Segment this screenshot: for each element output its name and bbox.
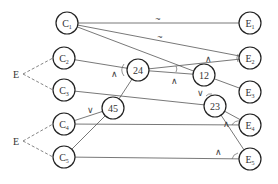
and-symbol: ∧ <box>215 147 222 157</box>
edge-c3-n23 <box>64 90 215 106</box>
node-e1[interactable]: E1 <box>239 12 261 34</box>
node-label: 23 <box>210 101 220 112</box>
and-symbol: ∧ <box>205 54 212 64</box>
node-e5[interactable]: E5 <box>239 148 261 170</box>
node-n23[interactable]: 23 <box>204 95 226 117</box>
node-c1[interactable]: C1 <box>56 12 78 34</box>
node-e4[interactable]: E4 <box>239 114 261 136</box>
node-c2[interactable]: C2 <box>53 47 75 69</box>
and-symbol: ∧ <box>171 76 178 86</box>
tilde-mark: ~ <box>157 32 162 42</box>
node-n45[interactable]: 45 <box>102 97 124 119</box>
edge-c5-e5 <box>64 157 250 159</box>
node-c3[interactable]: C3 <box>53 79 75 101</box>
node-e3[interactable]: E3 <box>239 81 261 103</box>
group-label: E <box>13 136 19 147</box>
angle-arc-e2 <box>237 54 238 62</box>
dashed-connector-c5 <box>23 141 53 157</box>
dashed-connector-c2 <box>23 58 53 74</box>
or-symbol: ∨ <box>197 88 204 98</box>
diagram-canvas: ~~∧∧∧∨∨∧∧ C1C2C3C4C5E1E2E3E4E524122345 E… <box>0 0 278 184</box>
node-c5[interactable]: C5 <box>53 146 75 168</box>
group-labels: EE <box>13 69 19 147</box>
node-label: 24 <box>133 65 143 76</box>
angle-arc-12 <box>176 66 177 72</box>
group-connectors <box>23 58 53 157</box>
node-label: 45 <box>108 103 118 114</box>
node-n24[interactable]: 24 <box>127 59 149 81</box>
angle-arc-e5 <box>232 153 238 159</box>
node-e2[interactable]: E2 <box>239 47 261 69</box>
angle-arc-24 <box>122 64 124 76</box>
edges-layer <box>64 23 250 159</box>
dashed-connector-c4 <box>23 124 53 141</box>
node-n12[interactable]: 12 <box>193 64 215 86</box>
and-symbol: ∧ <box>223 119 230 129</box>
edge-n24-e2 <box>138 58 250 70</box>
group-label: E <box>13 69 19 80</box>
node-label: 12 <box>199 70 209 81</box>
and-symbol: ∧ <box>111 69 118 79</box>
tilde-mark: ~ <box>155 14 160 24</box>
dashed-connector-c3 <box>23 74 53 90</box>
or-symbol: ∨ <box>87 105 94 115</box>
node-c4[interactable]: C4 <box>53 113 75 135</box>
